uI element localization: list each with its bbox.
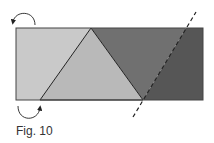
top-left-arrow-icon xyxy=(13,13,35,25)
bottom-left-arrow-icon xyxy=(18,106,40,118)
figure-caption: Fig. 10 xyxy=(16,124,53,138)
folding-diagram xyxy=(0,0,214,143)
